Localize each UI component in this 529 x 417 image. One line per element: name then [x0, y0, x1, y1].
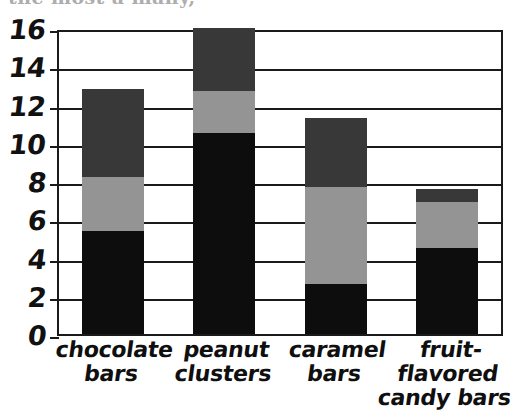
tick-mark-12	[50, 108, 59, 110]
tick-mark-4	[50, 261, 59, 263]
bar-segment-middle-segment	[193, 91, 255, 133]
bar	[82, 89, 144, 334]
bar	[193, 28, 255, 334]
bar-segment-bottom-segment	[193, 133, 255, 334]
stacked-bar-chart: 0246810121416 chocolate barspeanut clust…	[0, 0, 529, 417]
y-axis-tick-labels: 0246810121416	[0, 30, 46, 336]
tick-mark-2	[50, 299, 59, 301]
y-tick-label-4: 4	[26, 246, 48, 273]
bar	[416, 189, 478, 334]
y-tick-label-10: 10	[8, 131, 48, 158]
bar-segment-middle-segment	[305, 187, 367, 285]
plot-area	[57, 30, 503, 336]
x-axis-category-labels: chocolate barspeanut clusterscaramel bar…	[57, 338, 503, 417]
y-tick-label-14: 14	[8, 54, 48, 81]
bar	[305, 118, 367, 334]
bar-segment-top-segment	[82, 89, 144, 177]
bar-segment-middle-segment	[82, 177, 144, 231]
bar-segment-top-segment	[193, 28, 255, 91]
bar-segment-top-segment	[305, 118, 367, 187]
tick-mark-6	[50, 222, 59, 224]
y-tick-label-12: 12	[8, 93, 48, 120]
y-tick-label-2: 2	[26, 284, 48, 311]
bar-segment-bottom-segment	[416, 248, 478, 334]
bar-segment-top-segment	[416, 189, 478, 202]
gridline-14	[59, 69, 501, 71]
y-tick-label-6: 6	[26, 207, 48, 234]
bar-segment-bottom-segment	[305, 284, 367, 334]
tick-mark-16	[50, 31, 59, 33]
bar-segment-middle-segment	[416, 202, 478, 248]
tick-mark-8	[50, 184, 59, 186]
bar-segment-bottom-segment	[82, 231, 144, 334]
x-axis-label: fruit-flavored candy bars	[372, 338, 522, 409]
tick-mark-14	[50, 69, 59, 71]
y-tick-label-16: 16	[8, 16, 48, 43]
tick-mark-10	[50, 146, 59, 148]
y-tick-label-8: 8	[26, 169, 48, 196]
